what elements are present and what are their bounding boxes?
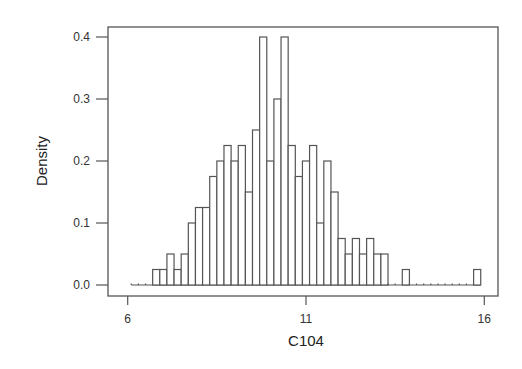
histogram-bar <box>331 192 338 285</box>
histogram-bar <box>217 161 224 285</box>
histogram-bar <box>359 254 366 285</box>
histogram-bar <box>374 254 381 285</box>
histogram-bar <box>295 177 302 286</box>
histogram-bar <box>253 130 260 285</box>
histogram-bar <box>345 254 352 285</box>
histogram-bar <box>310 146 317 286</box>
histogram-bar <box>274 99 281 285</box>
histogram-bar <box>367 239 374 286</box>
y-axis: 0.00.10.20.30.4 <box>73 30 108 292</box>
y-tick-label: 0.3 <box>73 92 90 106</box>
histogram-bar <box>210 177 217 286</box>
histogram-bar <box>288 146 295 286</box>
histogram-bar <box>153 270 160 286</box>
histogram-bar <box>181 254 188 285</box>
y-tick-label: 0.1 <box>73 216 90 230</box>
y-tick-label: 0.0 <box>73 278 90 292</box>
histogram-bar <box>174 270 181 286</box>
histogram-bar <box>474 270 481 286</box>
histogram-bar <box>260 37 267 285</box>
histogram-bar <box>324 161 331 285</box>
y-tick-label: 0.2 <box>73 154 90 168</box>
histogram-bar <box>231 161 238 285</box>
histogram-bar <box>352 239 359 286</box>
histogram-bar <box>188 223 195 285</box>
histogram-bar <box>302 161 309 285</box>
x-tick-label: 6 <box>124 312 131 326</box>
histogram-chart: 0.00.10.20.30.4 61116 C104 Density <box>0 0 522 369</box>
histogram-bar <box>281 37 288 285</box>
y-axis-title: Density <box>33 135 50 186</box>
x-axis: 61116 <box>124 296 491 326</box>
histogram-bar <box>317 223 324 285</box>
bars-group <box>131 37 480 285</box>
x-tick-label: 16 <box>478 312 492 326</box>
histogram-bar <box>338 239 345 286</box>
histogram-bar <box>381 254 388 285</box>
x-axis-title: C104 <box>288 332 324 349</box>
histogram-bar <box>238 146 245 286</box>
histogram-bar <box>224 146 231 286</box>
histogram-bar <box>160 270 167 286</box>
histogram-bar <box>267 161 274 285</box>
x-tick-label: 11 <box>300 312 313 326</box>
histogram-bar <box>203 208 210 286</box>
histogram-bar <box>402 270 409 286</box>
y-tick-label: 0.4 <box>73 30 90 44</box>
histogram-bar <box>245 192 252 285</box>
histogram-bar <box>167 254 174 285</box>
histogram-bar <box>195 208 202 286</box>
